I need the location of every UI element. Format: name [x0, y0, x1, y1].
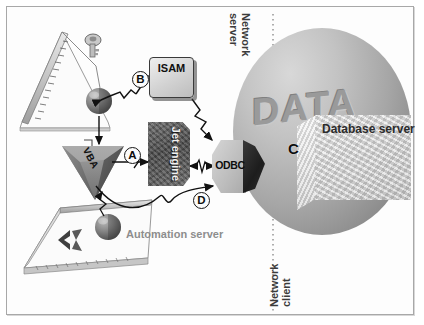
key-icon	[85, 34, 101, 57]
diagram-screenshot: DATA Database server ISAM Jet engine ODB…	[0, 0, 424, 325]
callout-b[interactable]: B	[132, 71, 149, 88]
isam-label: ISAM	[149, 62, 194, 74]
odbc-label: ODBC	[212, 159, 248, 171]
connector-jet-odbc	[190, 160, 214, 172]
connector-isam-odbc	[192, 99, 212, 140]
automation-server-label: Automation server	[126, 228, 223, 241]
access-window[interactable]	[20, 32, 110, 131]
callout-a[interactable]: A	[124, 147, 141, 164]
sphere-node-icon-top	[86, 88, 112, 114]
sphere-node-icon-bottom	[95, 214, 121, 240]
database-server-label: Database server	[322, 122, 415, 136]
database-server-side-face	[297, 115, 316, 210]
callout-c[interactable]: C	[285, 140, 302, 157]
callout-d[interactable]: D	[193, 192, 210, 209]
jet-engine-label: Jet engine	[148, 122, 190, 186]
network-client-label: Network client	[268, 264, 292, 307]
network-server-label: Network server	[228, 13, 252, 56]
